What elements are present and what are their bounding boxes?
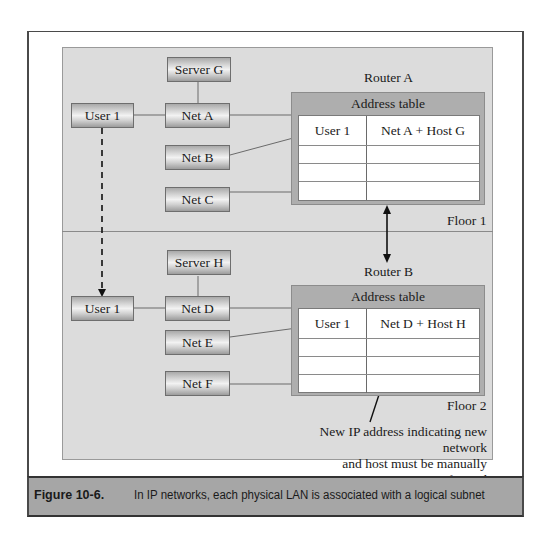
server-h-box: Server H xyxy=(167,250,231,275)
figure-caption-bar: Figure 10-6. In IP networks, each physic… xyxy=(27,476,524,517)
table-cell-user xyxy=(299,339,367,356)
table-cell-address xyxy=(367,182,479,200)
table-row xyxy=(299,182,479,200)
figure-number: Figure 10-6. xyxy=(34,488,104,502)
floor2-label: Floor 2 xyxy=(447,398,486,414)
user1-floor1-box: User 1 xyxy=(71,103,134,128)
net-d-box: Net D xyxy=(165,296,230,321)
figure-caption: In IP networks, each physical LAN is ass… xyxy=(134,488,485,502)
router-b-label: Router B xyxy=(364,264,413,280)
table-cell-address: Net D + Host H xyxy=(367,309,479,338)
net-b-box: Net B xyxy=(165,145,230,170)
table-cell-user: User 1 xyxy=(299,309,367,338)
net-b-label: Net B xyxy=(182,150,214,166)
table-row xyxy=(299,164,479,182)
net-f-box: Net F xyxy=(165,371,230,396)
net-c-box: Net C xyxy=(165,187,230,212)
table-row xyxy=(299,357,479,375)
table-row xyxy=(299,339,479,357)
table-cell-user xyxy=(299,375,367,393)
net-a-label: Net A xyxy=(182,108,214,124)
table-row xyxy=(299,375,479,393)
router-a-label: Router A xyxy=(364,70,413,86)
table-cell-user xyxy=(299,146,367,163)
net-a-box: Net A xyxy=(165,103,230,128)
user1-floor2-label: User 1 xyxy=(85,301,121,317)
net-c-label: Net C xyxy=(182,192,214,208)
table-cell-address: Net A + Host G xyxy=(367,116,479,145)
table-row: User 1 Net D + Host H xyxy=(299,309,479,339)
server-g-box: Server G xyxy=(167,57,231,82)
table-row: User 1 Net A + Host G xyxy=(299,116,479,146)
table-cell-address xyxy=(367,146,479,163)
net-f-label: Net F xyxy=(182,376,212,392)
table-cell-user xyxy=(299,182,367,200)
table-cell-address xyxy=(367,357,479,374)
floor1-label: Floor 1 xyxy=(447,213,486,229)
router-b-table-grid: User 1 Net D + Host H xyxy=(298,308,480,393)
net-d-label: Net D xyxy=(181,301,214,317)
net-e-label: Net E xyxy=(182,335,213,351)
table-cell-address xyxy=(367,164,479,181)
router-a-table-grid: User 1 Net A + Host G xyxy=(298,115,480,201)
net-e-box: Net E xyxy=(165,330,230,355)
annotation-line-1: New IP address indicating new network xyxy=(272,424,487,456)
user1-floor2-box: User 1 xyxy=(71,296,134,321)
table-cell-address xyxy=(367,339,479,356)
user1-floor1-label: User 1 xyxy=(85,108,121,124)
router-b-address-table: Address table User 1 Net D + Host H xyxy=(291,285,485,396)
table-cell-user xyxy=(299,357,367,374)
server-h-label: Server H xyxy=(175,255,223,271)
router-b-table-title: Address table xyxy=(292,286,484,308)
server-g-label: Server G xyxy=(175,62,223,78)
table-cell-user: User 1 xyxy=(299,116,367,145)
table-cell-address xyxy=(367,375,479,393)
table-cell-user xyxy=(299,164,367,181)
table-row xyxy=(299,146,479,164)
router-a-address-table: Address table User 1 Net A + Host G xyxy=(291,92,485,205)
router-a-table-title: Address table xyxy=(292,93,484,115)
